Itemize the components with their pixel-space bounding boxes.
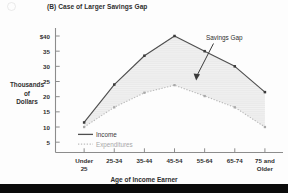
income-data-point — [173, 35, 176, 38]
savings-gap-annotation: Savings Gap — [206, 34, 243, 41]
income-data-point — [264, 91, 267, 94]
y-axis-tick-label: 30 — [24, 63, 50, 70]
savings-gap-region — [84, 36, 265, 127]
page-footer-bar — [0, 184, 288, 193]
legend-item-expenditures: Expenditures — [96, 141, 133, 148]
expenditures-data-point — [234, 106, 236, 108]
y-axis-tick-label: $40 — [24, 33, 50, 40]
expenditures-data-point — [83, 126, 85, 128]
y-axis-tick-label: 35 — [24, 48, 50, 55]
x-axis-tick-label: 75 andOlder — [243, 157, 287, 174]
income-data-point — [203, 50, 206, 53]
y-axis-tick-label: 10 — [24, 124, 50, 131]
income-data-point — [113, 83, 116, 86]
y-axis-tick-label: 15 — [24, 108, 50, 115]
expenditures-data-point — [173, 84, 175, 86]
expenditures-data-point — [204, 95, 206, 97]
income-data-point — [143, 54, 146, 57]
y-axis-tick-label: 5 — [24, 139, 50, 146]
x-axis-tick-label-line: Older — [243, 165, 287, 173]
x-axis-ticks — [84, 148, 265, 152]
y-axis-tick-label: 25 — [24, 78, 50, 85]
expenditures-data-point — [264, 126, 266, 128]
x-axis-title: Age of Income Earner — [0, 176, 288, 183]
legend-swatches — [78, 134, 93, 144]
x-axis-tick-label-line: 75 and — [243, 157, 287, 165]
y-axis-ticks — [56, 36, 60, 142]
x-axis-tick-label-line: 25 — [62, 165, 106, 173]
income-data-point — [83, 121, 86, 124]
chart-figure: (B) Case of Larger Savings Gap — [0, 0, 288, 193]
legend-item-income: Income — [96, 131, 117, 138]
expenditures-data-point — [113, 106, 115, 108]
expenditures-data-point — [143, 92, 145, 94]
income-data-point — [234, 65, 237, 68]
y-axis-tick-label: 20 — [24, 93, 50, 100]
